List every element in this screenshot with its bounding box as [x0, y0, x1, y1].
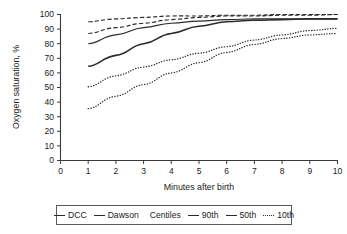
legend-label-dcc: DCC [68, 211, 87, 220]
y-tick-label: 60 [45, 68, 55, 78]
series-line-dawson-90th [88, 19, 337, 44]
y-tick-label: 80 [45, 39, 55, 49]
y-axis-title: Oxygen saturation, % [11, 45, 21, 129]
legend-label-50th: 50th [240, 211, 257, 220]
x-tick-label: 3 [141, 166, 146, 176]
dotted-line-swatch-icon [263, 215, 274, 216]
y-tick-labels: 0 10 20 30 40 50 60 70 80 90 100 [40, 9, 54, 165]
y-tick-label: 40 [45, 97, 55, 107]
oxygen-saturation-line-chart: 0 10 20 30 40 50 60 70 80 90 100 [0, 0, 347, 234]
y-tick-label: 90 [45, 24, 55, 34]
x-tick-label: 1 [86, 166, 91, 176]
legend-label-10th: 10th [277, 211, 294, 220]
legend-item-90th: 90th [188, 211, 219, 220]
legend-label-90th: 90th [202, 211, 219, 220]
x-tick-label: 8 [280, 166, 285, 176]
line-swatch-icon [226, 215, 237, 216]
legend-item-50th: 50th [226, 211, 257, 220]
line-swatch-icon [188, 215, 199, 216]
legend-item-dawson: Dawson [94, 211, 139, 220]
series-line-dawson-50th [88, 19, 337, 66]
legend-item-dcc: DCC [54, 211, 87, 220]
legend-item-centiles: Centiles [150, 211, 181, 220]
x-tick-label: 10 [333, 166, 343, 176]
legend-label-centiles: Centiles [150, 211, 181, 220]
x-tick-label: 5 [197, 166, 202, 176]
y-tick-label: 50 [45, 82, 55, 92]
y-tick-label: 30 [45, 112, 55, 122]
legend-label-dawson: Dawson [108, 211, 139, 220]
series-group [88, 14, 337, 108]
chart-legend: DCC Dawson Centiles 90th 50th 10th [56, 205, 292, 225]
series-line-dawson-10th [88, 33, 337, 108]
x-tick-label: 9 [307, 166, 312, 176]
y-tick-label: 20 [45, 126, 55, 136]
x-tick-label: 7 [252, 166, 257, 176]
y-tick-label: 70 [45, 53, 55, 63]
chart-figure: 0 10 20 30 40 50 60 70 80 90 100 [0, 0, 347, 234]
x-tick-labels: 0 1 2 3 4 5 6 7 8 9 10 [58, 166, 342, 176]
x-tick-label: 0 [58, 166, 63, 176]
series-line-dcc-10th [88, 28, 337, 86]
legend-item-10th: 10th [263, 211, 294, 220]
line-swatch-icon [94, 215, 105, 216]
y-tick-label: 0 [49, 155, 54, 165]
y-tick-label: 100 [40, 9, 54, 19]
x-tick-label: 2 [114, 166, 119, 176]
x-tick-label: 4 [169, 166, 174, 176]
line-swatch-icon [54, 215, 65, 216]
y-tick-label: 10 [45, 141, 55, 151]
x-axis-title: Minutes after birth [164, 182, 235, 192]
x-tick-label: 6 [224, 166, 229, 176]
